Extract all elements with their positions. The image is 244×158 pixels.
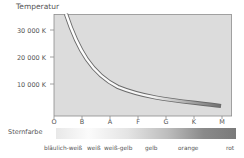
star-color-bar [56,128,236,139]
color-label-yellow: gelb [145,145,158,151]
x-tick-o: O [48,118,60,126]
x-tick-b: B [76,118,88,126]
x-tick-g: G [160,118,172,126]
color-bar-label: Sternfarbe [8,128,42,136]
x-tick-k: K [188,118,200,126]
color-label-white-yellow: weiß-gelb [104,145,132,151]
x-tick-f: F [132,118,144,126]
x-tick-a: A [104,118,116,126]
color-label-orange: orange [178,145,198,151]
color-label-red: rot [226,145,234,151]
color-label-bluish-white: bläulich-weiß [44,145,82,151]
x-tick-m: M [216,118,228,126]
color-label-white: weiß [87,145,101,151]
temperature-curve-outline [66,14,221,106]
